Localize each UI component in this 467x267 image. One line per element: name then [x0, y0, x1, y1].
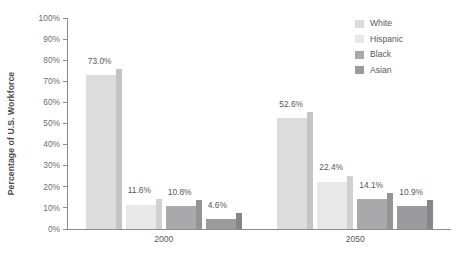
bar-shadow [387, 193, 393, 229]
bar[interactable]: 52.6% [277, 118, 313, 229]
bar-shadow [307, 112, 313, 229]
bar-value-label: 10.9% [399, 188, 423, 196]
bar[interactable]: 73.0% [86, 75, 122, 229]
y-axis-tick-label: 90% [43, 34, 60, 42]
legend-swatch [355, 66, 364, 74]
legend-label: Asian [370, 66, 392, 75]
y-axis-ticks: 100%90%80%70%60%50%40%30%20%10%0% [23, 18, 67, 228]
chart-legend: WhiteHispanicBlackAsian [355, 16, 461, 78]
bar-value-label: 14.1% [359, 181, 383, 189]
bar[interactable]: 14.1% [357, 199, 393, 229]
bar[interactable]: 10.9% [397, 206, 433, 229]
y-axis-tick-label: 0% [48, 224, 60, 232]
legend-item[interactable]: Asian [355, 63, 461, 79]
bar[interactable]: 11.6% [126, 205, 162, 229]
bar[interactable]: 4.6% [206, 219, 242, 229]
bar-face [397, 206, 427, 229]
x-axis-category-label: 2000 [68, 234, 260, 244]
bar-shadow [156, 199, 162, 229]
bar-value-label: 73.0% [88, 57, 112, 65]
legend-swatch [355, 51, 364, 59]
bar-shadow [347, 176, 353, 229]
legend-item[interactable]: Hispanic [355, 32, 461, 48]
legend-swatch [355, 35, 364, 43]
bar[interactable]: 10.8% [166, 206, 202, 229]
legend-item[interactable]: Black [355, 47, 461, 63]
y-axis-tick-label: 60% [43, 98, 60, 106]
x-axis-labels: 20002050 [68, 234, 451, 250]
y-axis-tick-label: 30% [43, 161, 60, 169]
bar-value-label: 11.6% [128, 186, 151, 194]
bar-face [166, 206, 196, 229]
x-axis-category-label: 2050 [260, 234, 452, 244]
bar-face [317, 182, 347, 229]
legend-swatch [355, 20, 364, 28]
y-axis-tick-label: 20% [43, 182, 60, 190]
y-axis-tick-label: 10% [43, 203, 60, 211]
bar-shadow [116, 69, 122, 229]
bar-shadow [196, 200, 202, 229]
bar-group: 73.0%11.6%10.8%4.6% [86, 18, 242, 229]
y-axis-tick-label: 100% [39, 13, 60, 21]
y-axis-tick-label: 40% [43, 140, 60, 148]
y-axis-tick-label: 50% [43, 119, 60, 127]
bar-value-label: 52.6% [279, 100, 303, 108]
bar-face [206, 219, 236, 229]
y-axis-tick-label: 80% [43, 55, 60, 63]
legend-label: White [370, 19, 392, 28]
bar-face [86, 75, 116, 229]
bar-value-label: 22.4% [319, 163, 343, 171]
legend-label: Hispanic [370, 35, 403, 44]
legend-item[interactable]: White [355, 16, 461, 32]
bar-value-label: 4.6% [208, 201, 227, 209]
x-axis-line [67, 229, 451, 230]
y-axis-title: Percentage of U.S. Workforce [0, 0, 22, 267]
y-axis-tick-label: 70% [43, 77, 60, 85]
bar-value-label: 10.8% [168, 188, 192, 196]
bar-chart: Percentage of U.S. Workforce 100%90%80%7… [0, 0, 467, 267]
bar[interactable]: 22.4% [317, 182, 353, 229]
bar-shadow [236, 213, 242, 229]
bar-face [126, 205, 156, 229]
bar-shadow [427, 200, 433, 229]
bar-face [277, 118, 307, 229]
legend-label: Black [370, 50, 391, 59]
bar-face [357, 199, 387, 229]
